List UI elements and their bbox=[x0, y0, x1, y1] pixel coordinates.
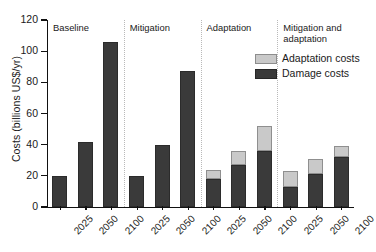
x-tick-label: 2050 bbox=[174, 213, 198, 237]
x-tick bbox=[290, 206, 291, 210]
x-tick bbox=[188, 206, 189, 210]
bar-segment-adaptation-costs bbox=[206, 170, 221, 179]
legend-item-damage-costs: Damage costs bbox=[255, 67, 360, 80]
x-tick-label: 2025 bbox=[148, 213, 172, 237]
x-tick-label: 2100 bbox=[276, 213, 300, 237]
x-tick-label: 2025 bbox=[302, 213, 326, 237]
bar-segment-adaptation-costs bbox=[231, 151, 246, 165]
x-tick bbox=[162, 206, 163, 210]
bar-segment-damage-costs bbox=[78, 142, 93, 207]
x-tick bbox=[239, 206, 240, 210]
bar-segment-damage-costs bbox=[129, 176, 144, 207]
y-tick-label-100: 100 bbox=[0, 45, 38, 55]
bar-segment-damage-costs bbox=[257, 151, 272, 207]
bar-segment-adaptation-costs bbox=[334, 146, 349, 157]
x-tick bbox=[264, 206, 265, 210]
x-tick bbox=[316, 206, 317, 210]
bar bbox=[180, 71, 195, 207]
bar bbox=[52, 176, 67, 207]
x-tick-label: 2050 bbox=[97, 213, 121, 237]
x-tick-label: 2025 bbox=[71, 213, 95, 237]
x-tick bbox=[111, 206, 112, 210]
bar-segment-damage-costs bbox=[334, 157, 349, 207]
x-tick-label: 2100 bbox=[353, 213, 376, 237]
bar bbox=[334, 146, 349, 207]
legend-item-adaptation-costs: Adaptation costs bbox=[255, 52, 360, 65]
y-tick-label-0: 0 bbox=[0, 201, 38, 211]
x-tick-label: 2100 bbox=[122, 213, 146, 237]
legend-label-adaptation-costs: Adaptation costs bbox=[282, 53, 360, 64]
x-tick bbox=[341, 206, 342, 210]
y-tick-label-60: 60 bbox=[0, 108, 38, 118]
bar-segment-adaptation-costs bbox=[308, 159, 323, 175]
y-tick-label-80: 80 bbox=[0, 76, 38, 86]
bar bbox=[206, 170, 221, 207]
x-axis-ticks bbox=[47, 206, 354, 212]
bar bbox=[78, 142, 93, 207]
x-tick-label: 2100 bbox=[199, 213, 223, 237]
y-tick-label-120: 120 bbox=[0, 14, 38, 24]
x-axis-tick-labels: 2025205021002025205021002025205021002025… bbox=[0, 213, 373, 252]
bar bbox=[283, 171, 298, 207]
bar-segment-damage-costs bbox=[206, 179, 221, 207]
x-tick-label: 2050 bbox=[250, 213, 274, 237]
bar bbox=[129, 176, 144, 207]
bar-segment-damage-costs bbox=[180, 71, 195, 207]
y-tick-label-20: 20 bbox=[0, 170, 38, 180]
bar-segment-damage-costs bbox=[103, 42, 118, 207]
bar-series-container bbox=[47, 20, 354, 207]
bar-segment-adaptation-costs bbox=[283, 171, 298, 187]
bar bbox=[155, 145, 170, 207]
bar bbox=[257, 126, 272, 207]
bar-segment-damage-costs bbox=[308, 174, 323, 207]
bar bbox=[231, 151, 246, 207]
bar bbox=[103, 42, 118, 207]
bar-segment-damage-costs bbox=[52, 176, 67, 207]
bar-segment-damage-costs bbox=[231, 165, 246, 207]
chart-legend: Adaptation costs Damage costs bbox=[255, 52, 360, 82]
x-tick bbox=[137, 206, 138, 210]
x-tick-label: 2050 bbox=[327, 213, 351, 237]
bar bbox=[308, 159, 323, 207]
bar-segment-adaptation-costs bbox=[257, 126, 272, 151]
bar-segment-damage-costs bbox=[155, 145, 170, 207]
bar-segment-damage-costs bbox=[283, 187, 298, 207]
x-tick-label: 2025 bbox=[225, 213, 249, 237]
legend-swatch-adaptation-costs bbox=[255, 54, 277, 64]
legend-swatch-damage-costs bbox=[255, 69, 277, 79]
x-tick bbox=[60, 206, 61, 210]
x-tick bbox=[213, 206, 214, 210]
y-tick-label-40: 40 bbox=[0, 139, 38, 149]
legend-label-damage-costs: Damage costs bbox=[282, 68, 349, 79]
x-tick bbox=[85, 206, 86, 210]
